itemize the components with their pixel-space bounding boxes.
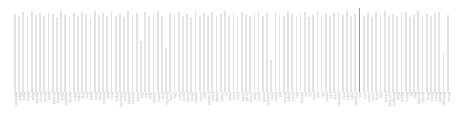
bar	[136, 13, 138, 92]
bar	[43, 16, 45, 92]
tick-label: Malawi	[396, 92, 399, 100]
bar	[443, 53, 445, 92]
bar	[371, 17, 373, 92]
bar	[409, 17, 411, 92]
tick-label: Comoros	[156, 92, 159, 103]
tick-label: Finland	[227, 92, 230, 101]
tick-label: Croatia	[169, 92, 172, 100]
bar	[69, 16, 71, 92]
bar-chart: AfghanistanAlbaniaAlgeriaAndorraAngolaAr…	[0, 0, 464, 140]
bar	[338, 12, 340, 92]
bar	[237, 17, 239, 92]
tick-label: Lebanon	[366, 92, 369, 102]
bar	[392, 14, 394, 92]
tick-label: Malta	[412, 92, 415, 98]
tick-label: Ecuador	[198, 92, 201, 102]
tick-label: Lesotho	[370, 92, 373, 101]
tick-label: Luxembourg	[387, 92, 390, 106]
bar	[123, 17, 125, 92]
bar	[249, 16, 251, 92]
bar	[291, 14, 293, 92]
bar	[287, 11, 289, 92]
bar	[258, 11, 260, 92]
tick-label: Iran	[303, 92, 306, 96]
tick-label: Argentina	[34, 92, 37, 103]
tick-label: Guinea	[269, 92, 272, 100]
tick-label: Belgium	[76, 92, 79, 101]
bar	[140, 41, 142, 92]
tick-label: Morocco	[446, 92, 449, 102]
bar	[161, 16, 163, 92]
bar	[199, 16, 201, 92]
tick-label: Mali	[408, 92, 411, 97]
bar	[48, 12, 50, 92]
bar	[308, 17, 310, 92]
tick-label: Congo	[160, 92, 163, 100]
tick-label: Australia	[43, 92, 46, 102]
bar	[401, 13, 403, 92]
tick-label: Italy	[320, 92, 323, 97]
bar	[132, 15, 134, 92]
tick-label: Mauritius	[421, 92, 424, 103]
tick-label: Mauritania	[417, 92, 420, 104]
bar	[300, 13, 302, 92]
tick-label: Libya	[379, 92, 382, 98]
bar	[388, 16, 390, 92]
bar	[64, 15, 66, 92]
tick-label: Jamaica	[324, 92, 327, 102]
bar	[106, 16, 108, 92]
x-axis-tick-labels: AfghanistanAlbaniaAlgeriaAndorraAngolaAr…	[0, 92, 464, 140]
tick-label: Gambia	[240, 92, 243, 101]
bar	[81, 12, 83, 92]
bar	[333, 13, 335, 92]
bar	[405, 12, 407, 92]
bar	[111, 12, 113, 92]
bar	[220, 14, 222, 92]
bar	[270, 60, 272, 92]
bar	[304, 12, 306, 92]
tick-label: Bahamas	[55, 92, 58, 103]
tick-label: Latvia	[362, 92, 365, 99]
bar	[186, 14, 188, 92]
tick-label: Kenya	[341, 92, 344, 99]
tick-label: Mexico	[425, 92, 428, 100]
tick-label: Brazil	[106, 92, 109, 99]
bar	[98, 15, 100, 92]
bar-series	[0, 0, 464, 92]
tick-label: Jordan	[333, 92, 336, 100]
tick-label: Ethiopia	[219, 92, 222, 101]
tick-label: Chile	[143, 92, 146, 98]
tick-label: Cuba	[173, 92, 176, 98]
tick-label: Belize	[80, 92, 83, 99]
bar	[430, 16, 432, 92]
bar	[380, 15, 382, 92]
tick-label: Gabon	[236, 92, 239, 100]
bar	[396, 16, 398, 92]
bar	[279, 15, 281, 92]
bar	[354, 14, 356, 92]
bar	[367, 13, 369, 92]
bar	[228, 16, 230, 92]
tick-label: Indonesia	[299, 92, 302, 103]
bar	[119, 14, 121, 92]
bar	[245, 15, 247, 92]
bar	[434, 13, 436, 92]
bar	[283, 16, 285, 92]
tick-label: Maldives	[404, 92, 407, 102]
bar	[346, 11, 348, 92]
tick-label: Andorra	[26, 92, 29, 101]
tick-label: Brunei	[110, 92, 113, 100]
bar	[325, 14, 327, 92]
bar	[233, 13, 235, 92]
tick-label: Japan	[328, 92, 331, 99]
tick-label: Costa Rica	[164, 92, 167, 105]
tick-label: France	[232, 92, 235, 100]
tick-label: Mongolia	[438, 92, 441, 103]
bar	[426, 14, 428, 92]
bar	[207, 15, 209, 92]
bar	[312, 15, 314, 92]
tick-label: Fiji	[223, 92, 226, 95]
bar	[266, 13, 268, 92]
bar	[329, 16, 331, 92]
tick-label: Montenegro	[442, 92, 445, 106]
